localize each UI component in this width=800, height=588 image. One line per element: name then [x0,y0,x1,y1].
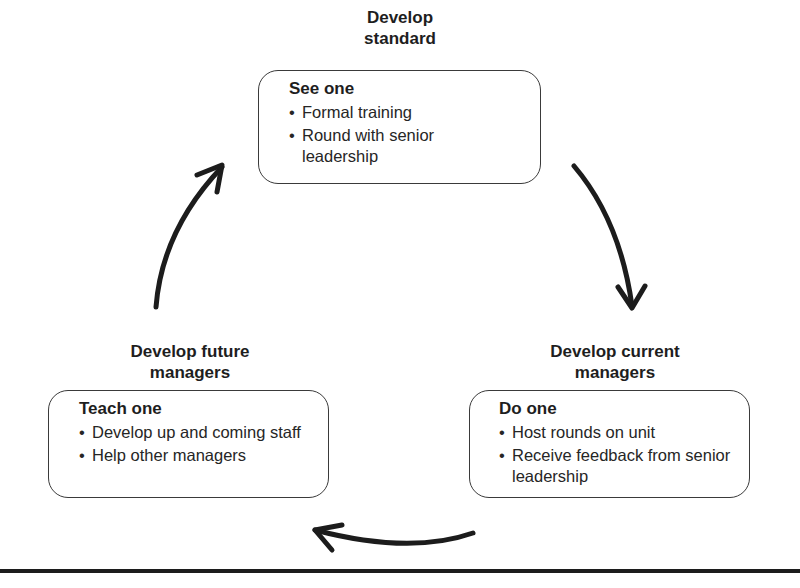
cycle-arrows [0,0,800,588]
curved-arrow-up-right-icon [156,165,222,307]
curved-arrow-left-icon [315,525,473,550]
bottom-rule-divider [0,569,800,573]
curved-arrow-down-right-icon [574,166,645,308]
